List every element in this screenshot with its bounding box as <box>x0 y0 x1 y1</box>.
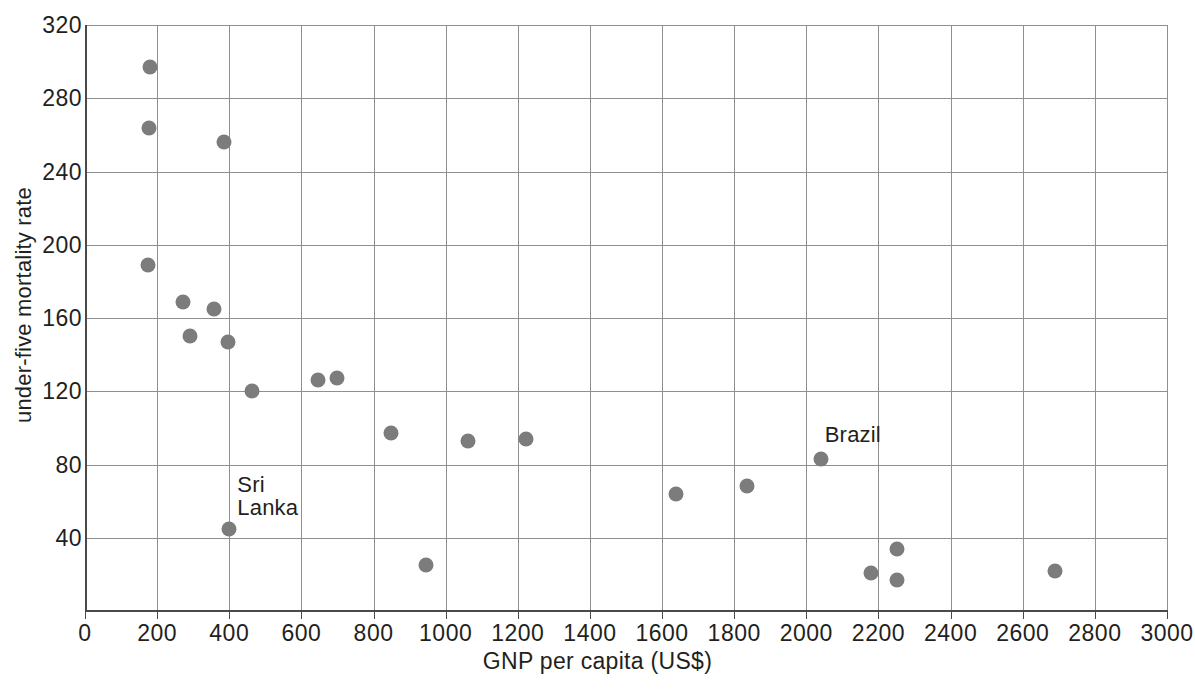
data-point <box>518 431 533 446</box>
x-tick-label: 1600 <box>635 620 688 647</box>
x-tick-label: 2000 <box>780 620 833 647</box>
x-tick-label: 2600 <box>996 620 1049 647</box>
data-point <box>142 120 157 135</box>
x-tick-label: 1800 <box>708 620 761 647</box>
x-tick <box>662 611 663 619</box>
data-point <box>739 479 754 494</box>
x-tick-label: 0 <box>78 620 91 647</box>
y-tick-label: 160 <box>42 305 82 332</box>
x-tick-label: 200 <box>137 620 177 647</box>
x-tick <box>446 611 447 619</box>
gridline-horizontal <box>85 318 1167 319</box>
x-tick-label: 400 <box>209 620 249 647</box>
x-tick <box>301 611 302 619</box>
data-point <box>418 558 433 573</box>
y-tick-label: 80 <box>55 451 82 478</box>
x-tick <box>951 611 952 619</box>
x-tick-label: 2200 <box>852 620 905 647</box>
x-tick-label: 2800 <box>1068 620 1121 647</box>
data-point <box>461 433 476 448</box>
x-tick-label: 600 <box>281 620 321 647</box>
x-tick <box>1095 611 1096 619</box>
x-tick <box>806 611 807 619</box>
gridline-horizontal <box>85 538 1167 539</box>
gridline-horizontal <box>85 465 1167 466</box>
data-point <box>330 371 345 386</box>
data-point <box>669 486 684 501</box>
y-axis-title: under-five mortality rate <box>11 85 37 525</box>
y-tick-label: 120 <box>42 378 82 405</box>
data-point <box>889 541 904 556</box>
x-tick-label: 1200 <box>491 620 544 647</box>
y-tick-label: 40 <box>55 524 82 551</box>
x-axis-line <box>85 610 1168 612</box>
x-tick <box>229 611 230 619</box>
x-tick <box>374 611 375 619</box>
data-point <box>222 521 237 536</box>
data-point <box>813 452 828 467</box>
gridline-horizontal <box>85 98 1167 99</box>
data-point <box>310 373 325 388</box>
y-tick-label: 240 <box>42 158 82 185</box>
x-tick <box>518 611 519 619</box>
data-point <box>1048 563 1063 578</box>
x-tick-label: 3000 <box>1140 620 1193 647</box>
data-point <box>183 329 198 344</box>
point-annotation-label: Sri Lanka <box>237 473 298 521</box>
x-tick <box>157 611 158 619</box>
data-point <box>221 334 236 349</box>
point-annotation-label: Brazil <box>825 423 881 447</box>
gridline-horizontal <box>85 245 1167 246</box>
x-tick-label: 1400 <box>563 620 616 647</box>
data-point <box>244 384 259 399</box>
x-tick-label: 800 <box>354 620 394 647</box>
data-point <box>889 572 904 587</box>
y-tick-label: 200 <box>42 231 82 258</box>
x-tick <box>85 611 86 619</box>
data-point <box>207 301 222 316</box>
x-tick <box>1167 611 1168 619</box>
data-point <box>216 135 231 150</box>
data-point <box>141 257 156 272</box>
gridline-vertical <box>1167 25 1168 611</box>
scatter-chart: 0200400600800100012001400160018002000220… <box>0 0 1195 690</box>
x-axis-title: GNP per capita (US$) <box>0 648 1195 675</box>
y-tick-label: 280 <box>42 85 82 112</box>
gridline-horizontal <box>85 172 1167 173</box>
x-tick <box>590 611 591 619</box>
x-tick <box>734 611 735 619</box>
data-point <box>383 426 398 441</box>
y-tick-label: 320 <box>42 12 82 39</box>
gridline-horizontal <box>85 25 1167 26</box>
data-point <box>864 565 879 580</box>
x-tick-label: 1000 <box>419 620 472 647</box>
data-point <box>142 60 157 75</box>
x-tick-label: 2400 <box>924 620 977 647</box>
plot-area <box>85 25 1167 611</box>
y-axis-line <box>85 25 87 612</box>
data-point <box>176 294 191 309</box>
x-tick <box>1023 611 1024 619</box>
x-tick <box>878 611 879 619</box>
